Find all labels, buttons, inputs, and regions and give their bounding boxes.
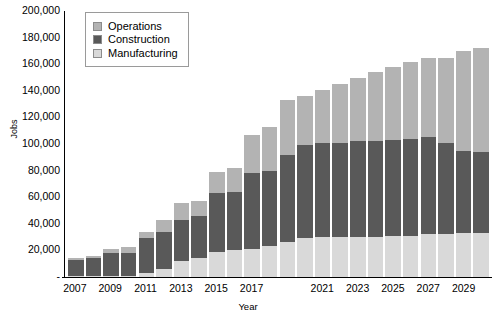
x-axis-title: Year [0, 301, 496, 312]
bar-column[interactable] [227, 11, 242, 277]
bar-segment-construction [368, 141, 383, 237]
y-axis-tick-label: 200,000 [2, 5, 60, 16]
bar-column[interactable] [315, 11, 330, 277]
legend-swatch-icon [93, 22, 102, 31]
x-axis-tick-labels: 2007200920112013201520172021202320252027… [64, 281, 490, 299]
bar-segment-construction [350, 141, 365, 237]
bar-column[interactable] [473, 11, 488, 277]
bar-column[interactable] [438, 11, 453, 277]
bar-segment-manufacturing [297, 238, 312, 277]
bar-segment-operations [297, 96, 312, 145]
bar-column[interactable] [262, 11, 277, 277]
bar-segment-construction [244, 173, 259, 249]
bar-column[interactable] [297, 11, 312, 277]
bar-segment-manufacturing [280, 242, 295, 277]
x-tick-slot: 2025 [385, 281, 400, 299]
legend-item[interactable]: Manufacturing [93, 48, 178, 59]
bar-segment-operations [315, 90, 330, 143]
bar-segment-operations [191, 201, 206, 216]
chart-legend: OperationsConstructionManufacturing [85, 12, 189, 67]
bar-segment-operations [385, 67, 400, 140]
bar-column[interactable] [209, 11, 224, 277]
bar-segment-manufacturing [473, 233, 488, 277]
bar-column[interactable] [68, 11, 83, 277]
bar-segment-construction [103, 253, 118, 276]
x-axis-tick-label: 2021 [311, 282, 334, 294]
bar-segment-construction [156, 232, 171, 269]
bar-segment-manufacturing [438, 234, 453, 277]
x-axis-line [62, 277, 492, 278]
bar-segment-manufacturing [244, 249, 259, 277]
bar-column[interactable] [280, 11, 295, 277]
bar-segment-operations [209, 172, 224, 193]
bar-segment-manufacturing [332, 237, 347, 277]
x-tick-slot [474, 281, 489, 299]
bar-segment-manufacturing [385, 236, 400, 277]
bar-segment-operations [280, 100, 295, 155]
legend-item[interactable]: Operations [93, 21, 178, 32]
bar-segment-construction [209, 193, 224, 252]
x-tick-slot: 2007 [67, 281, 82, 299]
bar-segment-construction [332, 143, 347, 237]
bar-segment-construction [121, 253, 136, 276]
legend-item-label: Manufacturing [108, 48, 178, 59]
y-axis-tick-labels: 200,000180,000160,000140,000120,000100,0… [0, 0, 60, 290]
bar-segment-operations [262, 127, 277, 171]
bar-column[interactable] [385, 11, 400, 277]
bar-column[interactable] [244, 11, 259, 277]
bar-column[interactable] [421, 11, 436, 277]
x-tick-slot: 2029 [456, 281, 471, 299]
bar-segment-operations [174, 203, 189, 220]
bar-segment-manufacturing [456, 233, 471, 277]
bar-column[interactable] [456, 11, 471, 277]
bar-segment-construction [456, 151, 471, 233]
bar-segment-manufacturing [174, 261, 189, 277]
bar-segment-manufacturing [209, 252, 224, 277]
x-tick-slot: 2009 [102, 281, 117, 299]
y-axis-tick-label: 100,000 [2, 138, 60, 149]
x-axis-tick-label: 2027 [417, 282, 440, 294]
bar-segment-construction [191, 216, 206, 259]
bar-segment-construction [174, 220, 189, 261]
bar-segment-manufacturing [191, 258, 206, 277]
y-axis-tick-label: 180,000 [2, 32, 60, 43]
x-axis-tick-label: 2029 [452, 282, 475, 294]
bar-segment-construction [68, 260, 83, 277]
bar-segment-manufacturing [421, 234, 436, 277]
x-tick-slot: 2027 [421, 281, 436, 299]
bar-segment-construction [262, 171, 277, 247]
y-axis-tick-label: 120,000 [2, 111, 60, 122]
y-axis-tick-label: 40,000 [2, 218, 60, 229]
bar-segment-operations [227, 168, 242, 192]
bar-column[interactable] [403, 11, 418, 277]
x-tick-slot: 2017 [244, 281, 259, 299]
x-axis-tick-label: 2011 [134, 282, 157, 294]
legend-swatch-icon [93, 35, 102, 44]
bar-segment-operations [350, 78, 365, 142]
bar-segment-manufacturing [156, 269, 171, 277]
bar-segment-operations [139, 232, 154, 239]
y-axis-tick-label: - [2, 271, 60, 282]
bar-segment-construction [297, 145, 312, 238]
x-axis-tick-label: 2017 [240, 282, 263, 294]
bar-column[interactable] [332, 11, 347, 277]
bar-column[interactable] [350, 11, 365, 277]
bar-segment-construction [227, 192, 242, 251]
bar-segment-construction [280, 155, 295, 243]
legend-item[interactable]: Construction [93, 34, 178, 45]
y-axis-tick-label: 80,000 [2, 165, 60, 176]
bar-segment-operations [438, 58, 453, 143]
x-tick-slot [261, 281, 276, 299]
bar-segment-manufacturing [350, 237, 365, 277]
bar-column[interactable] [368, 11, 383, 277]
bar-segment-construction [473, 152, 488, 233]
x-axis-tick-label: 2023 [346, 282, 369, 294]
bar-segment-manufacturing [315, 237, 330, 277]
bar-column[interactable] [191, 11, 206, 277]
legend-swatch-icon [93, 49, 102, 58]
jobs-stacked-bar-chart: Jobs 200,000180,000160,000140,000120,000… [0, 0, 496, 320]
x-tick-slot [279, 281, 294, 299]
x-axis-tick-label: 2025 [381, 282, 404, 294]
y-axis-tick-label: 160,000 [2, 58, 60, 69]
x-tick-slot: 2023 [350, 281, 365, 299]
